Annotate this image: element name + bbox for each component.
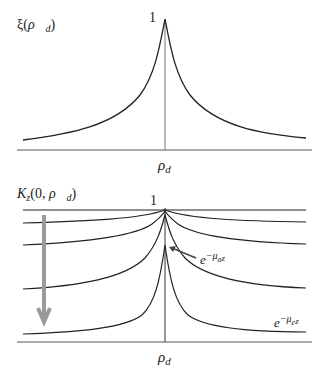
bottom-peak-label: 1 bbox=[150, 193, 157, 208]
mu-a-annotation: e−μaz bbox=[200, 250, 226, 267]
bottom-y-label: Kz(0, ρ⃗d) bbox=[16, 186, 77, 203]
top-x-label: ρd bbox=[157, 157, 171, 175]
bottom-panel: Kz(0, ρ⃗d) 1 e−μaz e−μez ρd bbox=[16, 186, 312, 367]
increasing-z-arrow bbox=[38, 215, 50, 322]
top-y-label: ξ(ρ⃗d) bbox=[17, 17, 56, 34]
top-panel: ξ(ρ⃗d) 1 ρd bbox=[17, 10, 312, 175]
bottom-x-label: ρd bbox=[157, 349, 171, 367]
mu-a-pointer bbox=[169, 246, 196, 258]
diagram-canvas: ξ(ρ⃗d) 1 ρd Kz(0, bbox=[0, 0, 324, 374]
top-peak-label: 1 bbox=[149, 10, 156, 25]
mu-e-annotation: e−μez bbox=[274, 313, 299, 330]
